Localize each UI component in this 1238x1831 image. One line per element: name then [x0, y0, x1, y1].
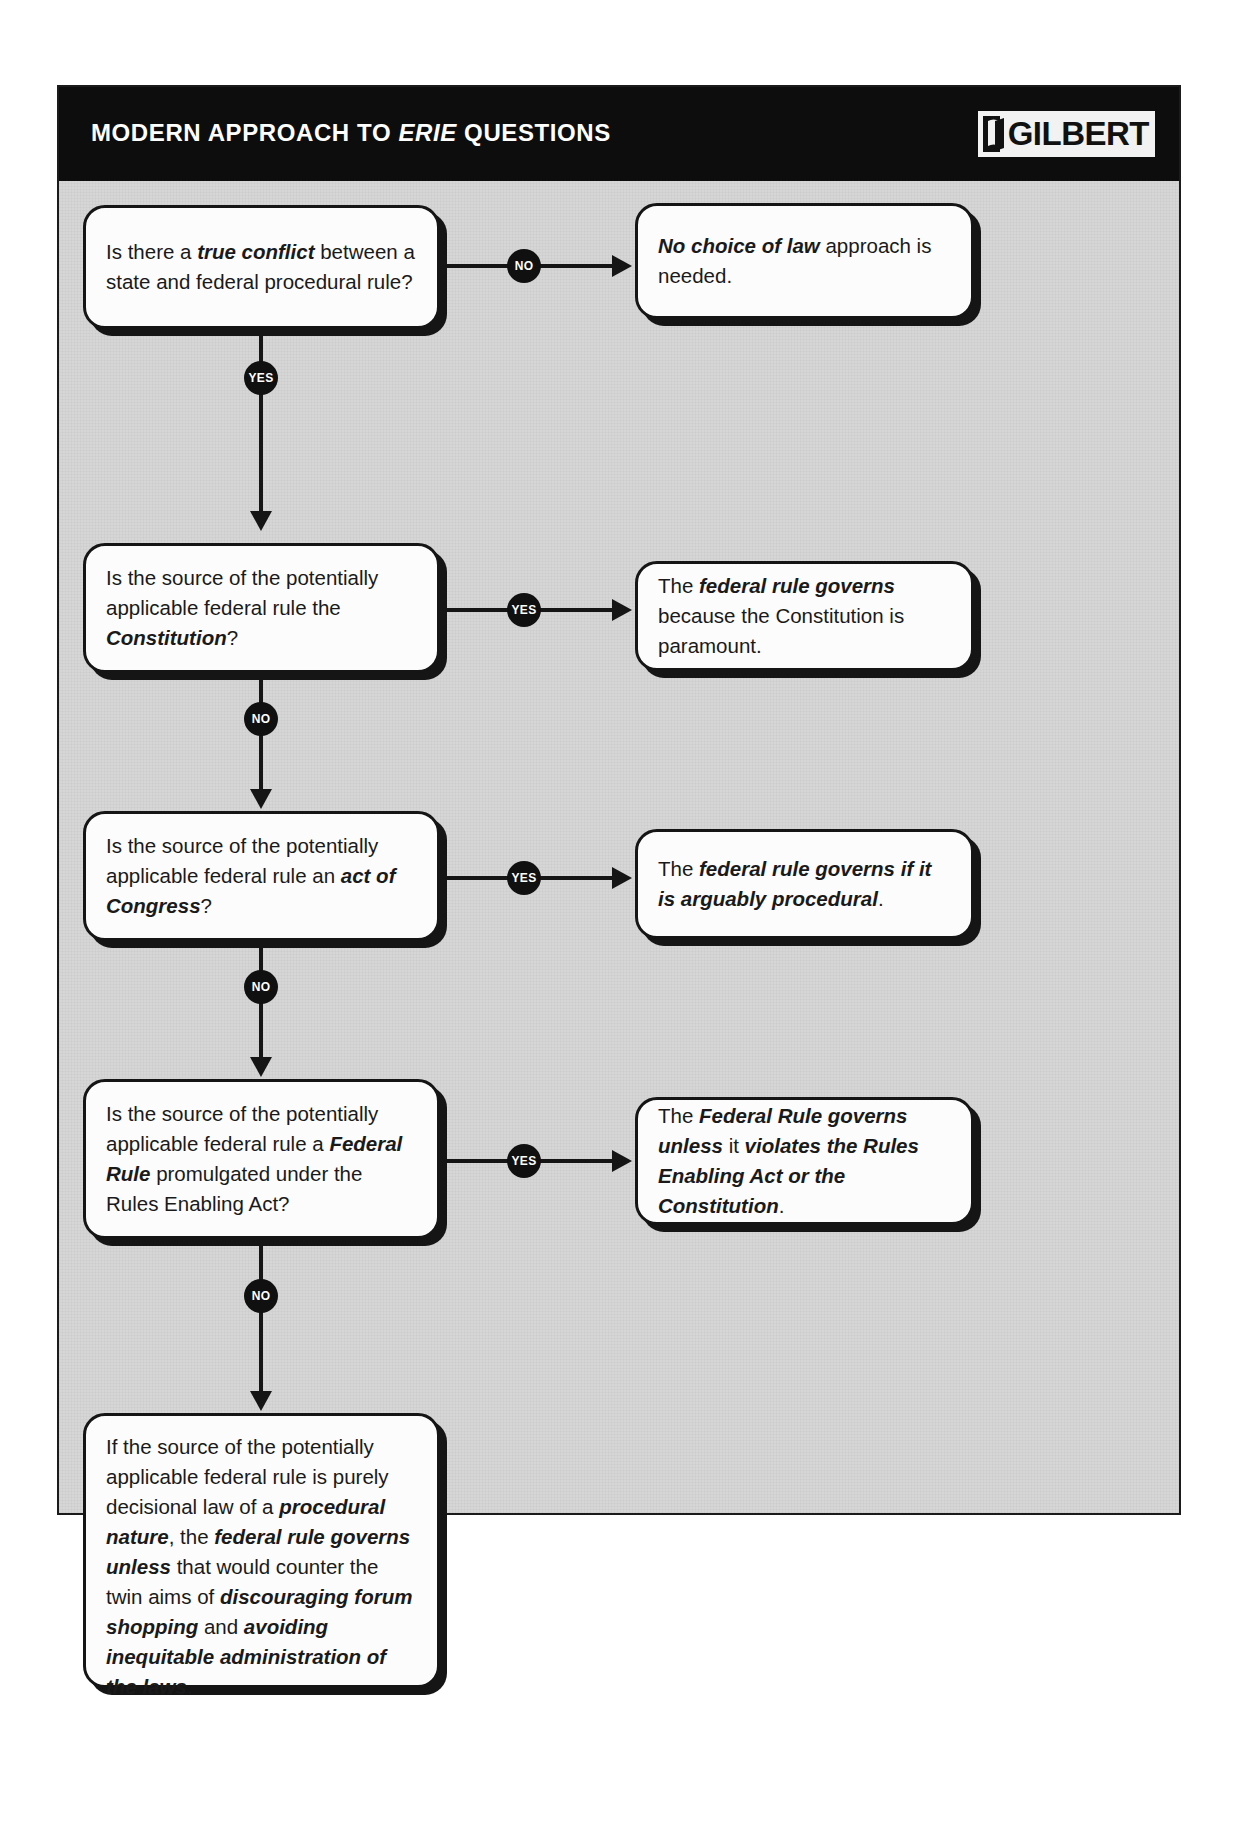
answer-node-4-text: The Federal Rule governs unless it viola… — [658, 1101, 951, 1221]
question-node-2-text: Is the source of the potentially applica… — [106, 563, 417, 653]
connector-q1-q2 — [259, 329, 263, 524]
book-mark-icon — [982, 115, 1006, 153]
arrowhead-q4-a4 — [612, 1150, 632, 1172]
answer-node-1[interactable]: No choice of law approach is needed. — [635, 203, 974, 319]
page-title-before: MODERN APPROACH TO — [91, 119, 398, 146]
arrowhead-q2-q3 — [250, 789, 272, 809]
connector-q3-q4 — [259, 941, 263, 1069]
answer-node-2[interactable]: The federal rule governs because the Con… — [635, 561, 974, 671]
arrowhead-q1-a1 — [612, 255, 632, 277]
badge-no-q4-q5-label: NO — [252, 1289, 271, 1303]
badge-yes-q1-q2-label: YES — [249, 371, 274, 385]
question-node-4[interactable]: Is the source of the potentially applica… — [83, 1079, 440, 1239]
answer-node-3-text: The federal rule governs if it is arguab… — [658, 854, 951, 914]
badge-yes-q4-a4: YES — [507, 1144, 541, 1178]
page-title-erie: ERIE — [398, 119, 456, 146]
question-node-1[interactable]: Is there a true conflict between a state… — [83, 205, 440, 329]
answer-node-2-text: The federal rule governs because the Con… — [658, 571, 951, 661]
question-node-1-text: Is there a true conflict between a state… — [106, 237, 417, 297]
answer-node-1-text: No choice of law approach is needed. — [658, 231, 951, 291]
answer-node-3[interactable]: The federal rule governs if it is arguab… — [635, 829, 974, 939]
badge-yes-q3-a3: YES — [507, 861, 541, 895]
badge-yes-q3-a3-label: YES — [512, 871, 537, 885]
connector-q2-q3 — [259, 673, 263, 801]
question-node-5-text: If the source of the potentially applica… — [106, 1432, 417, 1702]
question-node-5[interactable]: If the source of the potentially applica… — [83, 1413, 440, 1688]
badge-yes-q2-a2: YES — [507, 593, 541, 627]
arrowhead-q2-a2 — [612, 599, 632, 621]
question-node-3-text: Is the source of the potentially applica… — [106, 831, 417, 921]
page-title: MODERN APPROACH TO ERIE QUESTIONS — [91, 119, 611, 147]
badge-no-q2-q3-label: NO — [252, 712, 271, 726]
question-node-2[interactable]: Is the source of the potentially applica… — [83, 543, 440, 673]
page-canvas: MODERN APPROACH TO ERIE QUESTIONS GILBER… — [0, 0, 1238, 1831]
question-node-3[interactable]: Is the source of the potentially applica… — [83, 811, 440, 941]
badge-no-q2-q3: NO — [244, 702, 278, 736]
badge-yes-q1-q2: YES — [244, 361, 278, 395]
arrowhead-q4-q5 — [250, 1391, 272, 1411]
flowchart-frame: MODERN APPROACH TO ERIE QUESTIONS GILBER… — [57, 85, 1181, 1515]
badge-no-q4-q5: NO — [244, 1279, 278, 1313]
chart-header-bar: MODERN APPROACH TO ERIE QUESTIONS GILBER… — [59, 87, 1179, 181]
flowchart-body: Is there a true conflict between a state… — [59, 181, 1179, 1513]
badge-yes-q2-a2-label: YES — [512, 603, 537, 617]
page-title-after: QUESTIONS — [457, 119, 611, 146]
connector-q4-q5 — [259, 1239, 263, 1403]
arrowhead-q3-a3 — [612, 867, 632, 889]
badge-no-q1-a1-label: NO — [515, 259, 534, 273]
badge-no-q1-a1: NO — [507, 249, 541, 283]
badge-no-q3-q4: NO — [244, 970, 278, 1004]
answer-node-4[interactable]: The Federal Rule governs unless it viola… — [635, 1097, 974, 1225]
arrowhead-q3-q4 — [250, 1057, 272, 1077]
badge-yes-q4-a4-label: YES — [512, 1154, 537, 1168]
gilbert-logo: GILBERT — [978, 111, 1155, 157]
arrowhead-q1-q2 — [250, 511, 272, 531]
badge-no-q3-q4-label: NO — [252, 980, 271, 994]
question-node-4-text: Is the source of the potentially applica… — [106, 1099, 417, 1219]
gilbert-wordmark: GILBERT — [1008, 115, 1149, 153]
